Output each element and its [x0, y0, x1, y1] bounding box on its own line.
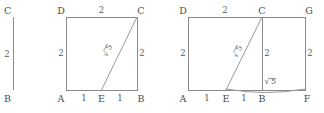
vertex-label-a-panel3: A: [179, 93, 187, 104]
vertex-label-b-panel3: B: [259, 93, 266, 104]
vertex-label-d-panel2: D: [57, 5, 65, 16]
vertex-label-f-panel3: F: [304, 93, 311, 104]
length-label-bc-panel1: 2: [4, 49, 9, 59]
panel-rectangle: D C G A E B F 2 2 2 2 1 1 √ 5 √ 5: [179, 5, 313, 104]
length-label-eb-panel2: 1: [117, 93, 122, 103]
length-label-dc-panel2: 2: [99, 5, 104, 15]
vertex-label-e-panel2: E: [98, 93, 105, 104]
length-label-dc-panel3: 2: [222, 5, 227, 15]
vertex-label-c-panel3: C: [258, 5, 265, 16]
length-label-ad-panel3: 2: [180, 48, 185, 58]
length-label-bc-panel2: 2: [139, 48, 144, 58]
vertex-label-c-panel2: C: [137, 5, 144, 16]
length-label-ec-panel2: √ 5: [101, 43, 115, 58]
length-label-bf-panel3: √ 5: [264, 77, 276, 86]
length-label-eb-panel3: 1: [241, 93, 246, 103]
rectangle-adgf-outline: [188, 17, 305, 90]
length-label-ad-panel2: 2: [58, 48, 63, 58]
vertex-label-b-panel2: B: [138, 93, 145, 104]
vertex-label-g-panel3: G: [305, 5, 313, 16]
length-label-cb-panel3: 2: [264, 48, 269, 58]
vertex-label-b-panel1: B: [4, 93, 11, 104]
length-label-ae-panel3: 1: [204, 93, 209, 103]
length-label-gf-panel3: 2: [307, 48, 312, 58]
diagram-canvas: C B 2 D C A E B 2 2 2 1 1 √ 5: [0, 0, 324, 113]
vertex-label-d-panel3: D: [179, 5, 187, 16]
geometry-diagram: C B 2 D C A E B 2 2 2 1 1 √ 5: [0, 0, 324, 113]
panel-square: D C A E B 2 2 2 1 1 √ 5: [57, 5, 145, 104]
vertex-label-a-panel2: A: [57, 93, 65, 104]
vertex-label-c-panel1: C: [4, 5, 11, 16]
length-label-ae-panel2: 1: [81, 93, 86, 103]
vertex-label-e-panel3: E: [223, 93, 230, 104]
panel-segment: C B 2: [4, 5, 13, 104]
